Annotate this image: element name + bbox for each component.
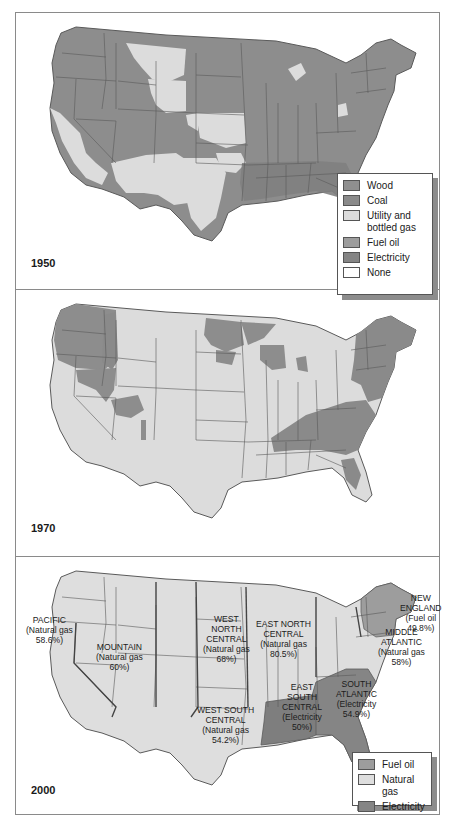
region-label-west-south-central: WEST SOUTH CENTRAL (Natural gas 54.2%) bbox=[197, 705, 254, 745]
none-swatch-icon bbox=[343, 267, 360, 278]
region-label-pacific: PACIFIC (Natural gas 58.6%) bbox=[26, 615, 73, 645]
coal-swatch-icon bbox=[343, 195, 360, 206]
region-label-south-atlantic: SOUTH ATLANTIC (Electricity 54.9%) bbox=[336, 679, 377, 719]
fuel-oil-swatch-icon bbox=[358, 759, 375, 770]
legend-1950: Wood Coal Utility and bottled gas Fuel o… bbox=[337, 173, 433, 295]
legend-item-utility-gas: Utility and bottled gas bbox=[343, 210, 426, 234]
legend-2000: Fuel oil Natural gas Electricity bbox=[352, 752, 432, 806]
region-label-middle-atlantic: MIDDLE ATLANTIC (Natural gas 58%) bbox=[378, 627, 425, 667]
legend-item-fuel-oil: Fuel oil bbox=[358, 759, 425, 771]
region-label-east-north-central: EAST NORTH CENTRAL (Natural gas 80.5%) bbox=[256, 619, 311, 659]
figure-frame: 1950 Wood Coal Utility and bottled gas F… bbox=[15, 12, 440, 815]
year-label-1970: 1970 bbox=[31, 522, 55, 534]
electricity-swatch-icon bbox=[358, 801, 375, 812]
region-label-mountain: MOUNTAIN (Natural gas 60%) bbox=[96, 642, 143, 672]
fuel-oil-swatch-icon bbox=[343, 237, 360, 248]
wood-swatch-icon bbox=[343, 180, 360, 191]
legend-item-electricity: Electricity bbox=[358, 801, 425, 813]
legend-item-coal: Coal bbox=[343, 195, 426, 207]
year-label-1950: 1950 bbox=[31, 257, 55, 269]
map-panel-1950: 1950 Wood Coal Utility and bottled gas F… bbox=[16, 13, 439, 290]
legend-item-none: None bbox=[343, 267, 426, 279]
legend-item-electricity: Electricity bbox=[343, 252, 426, 264]
map-panel-1970: 1970 bbox=[16, 290, 439, 557]
legend-item-wood: Wood bbox=[343, 180, 426, 192]
legend-item-fuel-oil: Fuel oil bbox=[343, 237, 426, 249]
us-map-1970 bbox=[16, 290, 439, 557]
region-label-east-south-central: EAST SOUTH CENTRAL (Electricity 50%) bbox=[282, 682, 322, 732]
year-label-2000: 2000 bbox=[31, 784, 55, 796]
legend-item-natural-gas: Natural gas bbox=[358, 774, 425, 798]
electricity-swatch-icon bbox=[343, 252, 360, 263]
utility-gas-swatch-icon bbox=[343, 210, 360, 221]
map-panel-2000: PACIFIC (Natural gas 58.6%) MOUNTAIN (Na… bbox=[16, 557, 439, 814]
natural-gas-swatch-icon bbox=[358, 774, 375, 785]
region-label-west-north-central: WEST NORTH CENTRAL (Natural gas 68%) bbox=[203, 614, 250, 664]
